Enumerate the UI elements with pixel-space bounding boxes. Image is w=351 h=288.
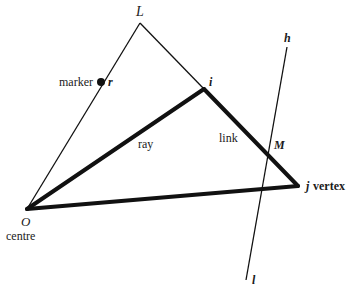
line-L-i (140, 23, 204, 89)
label-O: O (21, 214, 31, 229)
label-h: h (284, 31, 291, 45)
label-i: i (209, 75, 213, 89)
label-vertex: vertex (313, 179, 345, 193)
ray-O-i (27, 89, 204, 209)
segment-O-j (27, 186, 298, 209)
label-j: j (304, 179, 310, 193)
label-r: r (108, 75, 113, 89)
line-h-l (246, 47, 287, 280)
label-marker: marker (59, 75, 93, 89)
label-centre: centre (6, 229, 35, 243)
label-M: M (273, 138, 285, 152)
geometry-diagram: L i marker r ray link M h j vertex O cen… (0, 0, 351, 288)
label-ray: ray (138, 137, 153, 151)
label-l: l (252, 273, 256, 287)
line-O-L (27, 23, 140, 209)
marker-dot (97, 78, 105, 86)
label-link: link (219, 131, 238, 145)
label-L: L (135, 4, 144, 19)
